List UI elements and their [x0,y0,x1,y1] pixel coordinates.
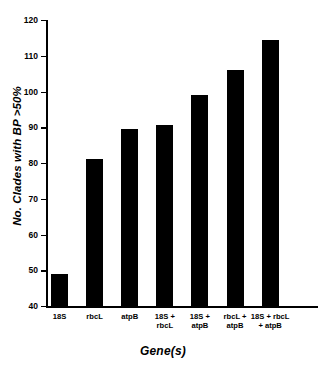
y-tick-mark [41,127,46,128]
x-tick-label: 18S + rbcL + atpB [247,312,293,331]
y-tick-mark [41,270,46,271]
x-axis-line [46,306,318,308]
y-axis-line [46,20,48,306]
bar [191,95,208,306]
x-axis-title: Gene(s) [0,344,326,358]
bar [121,129,138,306]
bar [156,125,173,306]
plot-area: 405060708090100110120 18SrbcLatpB18S + r… [46,20,318,306]
y-tick-label: 70 [29,195,38,204]
y-tick-label: 100 [24,87,38,96]
y-tick-label: 50 [29,266,38,275]
y-tick-mark [41,235,46,236]
y-tick-mark [41,199,46,200]
y-tick-label: 110 [24,52,38,61]
y-tick-label: 90 [29,123,38,132]
bar [227,70,244,306]
y-tick-mark [41,20,46,21]
bar-chart-figure: No. Clades with BP >50% 4050607080901001… [0,0,326,372]
y-tick-mark [41,306,46,307]
y-tick-label: 40 [29,302,38,311]
bar [51,274,68,306]
bar [86,159,103,306]
y-tick-label: 80 [29,159,38,168]
bar [262,40,279,306]
y-tick-label: 120 [24,16,38,25]
y-tick-label: 60 [29,230,38,239]
y-tick-mark [41,56,46,57]
y-tick-mark [41,92,46,93]
y-tick-mark [41,163,46,164]
